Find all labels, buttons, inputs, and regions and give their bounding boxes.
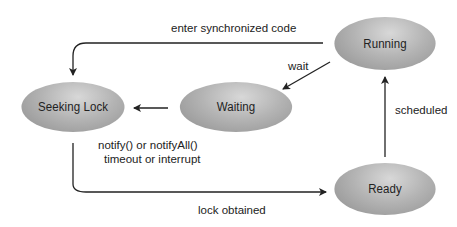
edge-label-lock-obtained: lock obtained: [198, 203, 266, 217]
state-ready: Ready: [334, 163, 435, 215]
state-seeking-lock-label: Seeking Lock: [38, 100, 108, 114]
state-seeking-lock: Seeking Lock: [21, 82, 124, 132]
arrow-running-to-seeking-lock: [73, 43, 323, 75]
state-running: Running: [334, 17, 435, 70]
edge-label-scheduled: scheduled: [395, 103, 447, 117]
state-waiting: Waiting: [180, 82, 292, 132]
state-waiting-label: Waiting: [217, 100, 256, 114]
edge-label-enter-synchronized-code: enter synchronized code: [171, 21, 296, 35]
state-ready-label: Ready: [368, 182, 402, 196]
edge-label-notify-line2: timeout or interrupt: [104, 152, 201, 166]
edge-label-wait: wait: [288, 59, 308, 73]
state-running-label: Running: [363, 37, 406, 51]
edge-label-notify-line1: notify() or notifyAll(): [98, 138, 198, 152]
